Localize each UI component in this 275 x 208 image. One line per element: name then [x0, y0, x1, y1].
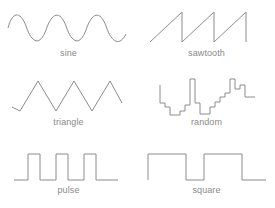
- waveform-label-square: square: [138, 185, 275, 196]
- triangle-waveform-icon: [0, 69, 137, 121]
- waveform-label-triangle: triangle: [0, 117, 137, 128]
- pulse-wave-path: [14, 154, 118, 180]
- sine-waveform-icon: [0, 0, 137, 52]
- waveform-label-sawtooth: sawtooth: [138, 48, 275, 59]
- pulse-waveform-icon: [0, 138, 137, 190]
- square-waveform-icon: [138, 138, 275, 190]
- waveform-panel-square: [138, 138, 275, 207]
- sawtooth-wave-path: [150, 12, 246, 42]
- waveform-label-random: random: [138, 117, 275, 128]
- waveform-figure: sine sawtooth triangle random pulse squa…: [0, 0, 275, 208]
- waveform-label-sine: sine: [0, 48, 137, 59]
- square-wave-path: [148, 154, 266, 180]
- waveform-panel-pulse: [0, 138, 137, 207]
- random-waveform-icon: [138, 69, 275, 121]
- waveform-label-pulse: pulse: [0, 185, 137, 196]
- triangle-wave-path: [12, 81, 122, 111]
- sawtooth-waveform-icon: [138, 0, 275, 52]
- sine-wave-path: [8, 15, 126, 42]
- random-wave-path: [160, 79, 255, 115]
